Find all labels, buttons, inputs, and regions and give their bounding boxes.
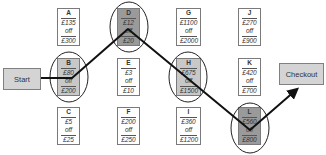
node-e: E £3 off £10 (117, 58, 140, 96)
node-discount: £420 (240, 69, 259, 78)
node-i: I £360 off £1200 (176, 107, 201, 145)
node-off: off (240, 77, 259, 86)
node-j: J £270 off £900 (238, 8, 261, 46)
node-l: L £560 off £800 (238, 107, 261, 145)
node-spend: £300 (61, 36, 76, 46)
node-c: C £5 off £25 (57, 107, 80, 145)
node-spend: £25 (61, 135, 76, 145)
node-id: E (121, 59, 136, 69)
node-g: G £1100 off £2000 (176, 8, 201, 46)
node-discount: £5 (59, 118, 78, 127)
node-spend: £200 (61, 86, 76, 96)
checkout-label: Checkout (286, 70, 318, 79)
start-box: Start (3, 68, 41, 90)
node-discount: £360 (178, 118, 199, 127)
node-h: H £675 off £1500 (176, 58, 201, 96)
node-off: off (240, 27, 259, 36)
start-label: Start (14, 75, 30, 84)
node-f: F £200 off £250 (117, 107, 140, 145)
node-spend: £20 (121, 36, 136, 46)
node-off: off (178, 126, 199, 135)
node-off: off (59, 77, 78, 86)
node-discount: £270 (240, 19, 259, 28)
node-k: K £420 off £700 (238, 58, 261, 96)
node-id: I (180, 108, 197, 118)
node-id: H (180, 59, 197, 69)
node-off: off (119, 77, 138, 86)
node-spend: £700 (242, 86, 257, 96)
node-discount: £200 (119, 118, 138, 127)
node-id: B (61, 59, 76, 69)
node-discount: £12 (119, 19, 138, 28)
node-discount: £3 (119, 69, 138, 78)
node-id: L (242, 108, 257, 118)
node-id: G (180, 9, 197, 19)
node-off: off (178, 77, 199, 86)
node-off: off (119, 27, 138, 36)
node-discount: £675 (178, 69, 199, 78)
node-b: B £80 off £200 (57, 58, 80, 96)
node-spend: £250 (121, 135, 136, 145)
checkout-box: Checkout (279, 63, 324, 85)
node-discount: £560 (240, 118, 259, 127)
node-d: D £12 off £20 (117, 8, 140, 46)
node-spend: £1500 (180, 86, 197, 96)
node-discount: £135 (59, 19, 78, 28)
node-spend: £10 (121, 86, 136, 96)
node-id: C (61, 108, 76, 118)
node-id: F (121, 108, 136, 118)
node-off: off (59, 126, 78, 135)
node-discount: £1100 (178, 19, 199, 28)
node-off: off (178, 27, 199, 36)
node-spend: £1200 (180, 135, 197, 145)
node-spend: £900 (242, 36, 257, 46)
node-id: K (242, 59, 257, 69)
node-off: off (119, 126, 138, 135)
node-id: A (61, 9, 76, 19)
node-off: off (240, 126, 259, 135)
node-id: D (121, 9, 136, 19)
path-overlay (0, 0, 326, 155)
node-spend: £2000 (180, 36, 197, 46)
node-discount: £80 (59, 69, 78, 78)
node-id: J (242, 9, 257, 19)
node-a: A £135 off £300 (57, 8, 80, 46)
node-spend: £800 (242, 135, 257, 145)
node-off: off (59, 27, 78, 36)
